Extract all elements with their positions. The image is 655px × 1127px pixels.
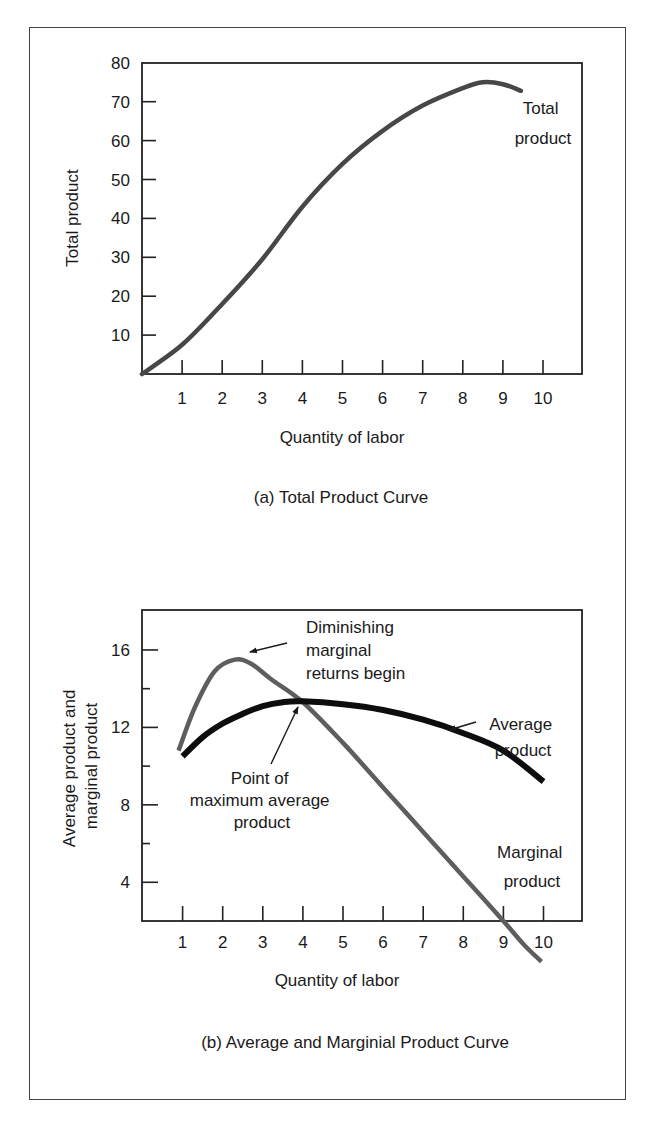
- y-axis-label-a: Total product: [63, 169, 82, 267]
- svg-text:Marginal product: Marginal product: [497, 843, 567, 891]
- total-product-chart: 1020304050607080 12345678910 Total produ…: [63, 54, 582, 507]
- x-tick-label: 10: [534, 389, 553, 408]
- total-product-curve: [142, 82, 521, 374]
- y-axis-ticks-b: 481216: [111, 641, 158, 892]
- x-tick-label: 3: [258, 389, 267, 408]
- x-tick-label: 9: [499, 933, 508, 952]
- marginal-product-annotation: Marginal product: [497, 843, 567, 891]
- caption-b: (b) Average and Marginial Product Curve: [201, 1033, 509, 1052]
- x-tick-label: 6: [378, 389, 387, 408]
- y-tick-label: 12: [111, 718, 130, 737]
- average-marginal-product-chart: 481216 12345678910 Average product and m…: [60, 610, 582, 1052]
- y-tick-label: 60: [111, 132, 130, 151]
- caption-a: (a) Total Product Curve: [254, 488, 428, 507]
- x-axis-label-b: Quantity of labor: [275, 971, 400, 990]
- x-tick-label: 2: [217, 389, 226, 408]
- x-tick-label: 1: [177, 389, 186, 408]
- x-tick-label: 1: [178, 933, 187, 952]
- plot-area-a: [142, 63, 582, 374]
- x-tick-label: 5: [338, 389, 347, 408]
- x-tick-label: 4: [298, 389, 307, 408]
- y-tick-label: 30: [111, 248, 130, 267]
- y-tick-label: 10: [111, 326, 130, 345]
- x-axis-label-a: Quantity of labor: [280, 428, 405, 447]
- total-product-label: Total product: [515, 99, 572, 148]
- y-tick-label: 70: [111, 93, 130, 112]
- y-tick-label: 8: [121, 796, 130, 815]
- x-tick-label: 9: [498, 389, 507, 408]
- x-tick-label: 7: [418, 933, 427, 952]
- x-tick-label: 3: [258, 933, 267, 952]
- svg-text:Diminishing marginal: Diminishing marginal returns begin: [306, 618, 405, 683]
- y-axis-label-b: Average product and marginal product: [60, 685, 101, 847]
- max-average-product-annotation: Point of maximum average product: [190, 707, 335, 832]
- y-tick-label: 50: [111, 171, 130, 190]
- y-tick-label: 16: [111, 641, 130, 660]
- arrow-icon: [449, 722, 476, 730]
- arrow-icon: [250, 643, 287, 652]
- average-product-annotation: Average product: [449, 715, 557, 760]
- x-tick-label: 10: [534, 933, 553, 952]
- y-tick-label: 4: [121, 873, 130, 892]
- x-tick-label: 8: [459, 933, 468, 952]
- x-tick-label: 6: [378, 933, 387, 952]
- y-axis-ticks-a: 1020304050607080: [111, 54, 156, 345]
- y-tick-label: 40: [111, 209, 130, 228]
- x-tick-label: 4: [298, 933, 307, 952]
- svg-text:Average product: Average product: [489, 715, 557, 760]
- x-tick-label: 7: [418, 389, 427, 408]
- svg-text:Point of maximum avera: Point of maximum average product: [190, 769, 335, 832]
- arrow-icon: [271, 707, 298, 764]
- figure-canvas: 1020304050607080 12345678910 Total produ…: [0, 0, 655, 1127]
- x-tick-label: 8: [458, 389, 467, 408]
- y-tick-label: 80: [111, 54, 130, 73]
- x-tick-label: 2: [218, 933, 227, 952]
- y-tick-label: 20: [111, 287, 130, 306]
- diminishing-returns-annotation: Diminishing marginal returns begin: [250, 618, 405, 683]
- x-tick-label: 5: [338, 933, 347, 952]
- x-axis-ticks-a: 12345678910: [177, 360, 552, 408]
